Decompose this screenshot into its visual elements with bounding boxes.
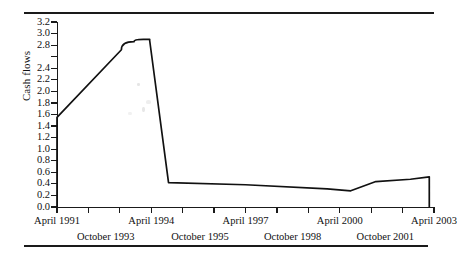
scan-speck xyxy=(142,107,145,112)
scan-speck xyxy=(128,112,132,115)
scan-speck xyxy=(146,100,151,104)
scan-speck xyxy=(137,83,140,86)
